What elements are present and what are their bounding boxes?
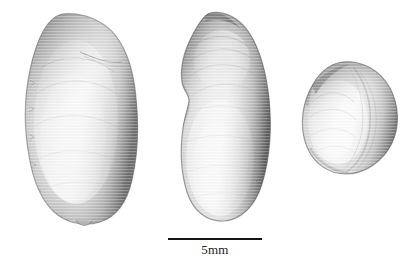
specimen-3-render	[298, 60, 402, 179]
scale-bar: 5mm	[160, 232, 270, 266]
specimen-figure-plate: 5mm	[0, 0, 419, 270]
specimen-image-1	[18, 10, 144, 226]
specimen-image-2	[174, 10, 276, 224]
scale-bar-label: 5mm	[160, 242, 270, 258]
scale-bar-line	[168, 238, 262, 240]
specimen-image-3	[298, 60, 402, 179]
specimen-1-render	[18, 10, 144, 226]
specimen-2-render	[174, 10, 276, 224]
